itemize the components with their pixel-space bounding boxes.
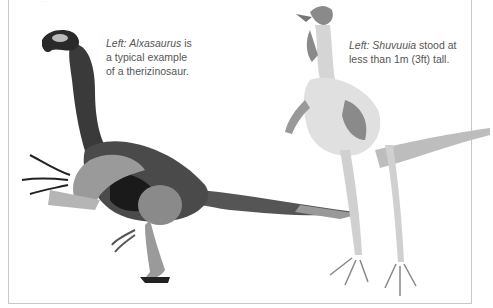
caption-shuvuuia: Left: Shuvuuia stood at less than 1m (3f… xyxy=(349,38,469,66)
caption-prefix: Left: xyxy=(349,39,369,51)
caption-prefix: Left: xyxy=(106,37,126,49)
caption-alxasaurus: Left: Alxasaurus is a typical example of… xyxy=(106,36,196,78)
caption-species-name: Alxasaurus xyxy=(129,37,181,49)
caption-species-name: Shuvuuia xyxy=(372,39,416,51)
